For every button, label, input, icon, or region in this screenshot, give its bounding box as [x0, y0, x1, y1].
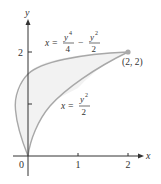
- parabola-lhs: x =: [60, 101, 74, 111]
- y-axis-arrow-icon: [26, 19, 31, 25]
- parabola-den: 2: [82, 107, 87, 117]
- quartic-num2: y: [89, 32, 94, 42]
- x-tick-label-1: 1: [76, 159, 81, 170]
- point-2-2: [125, 49, 130, 54]
- quartic-lhs: x =: [44, 38, 58, 48]
- quartic-exp2: 2: [95, 30, 98, 36]
- origin-label: 0: [19, 159, 24, 170]
- point-label: (2, 2): [122, 57, 143, 68]
- x-tick-label-2: 2: [126, 159, 131, 170]
- x-axis-arrow-icon: [138, 154, 144, 159]
- y-tick-label-2: 2: [18, 47, 23, 58]
- parabola-equation-label: x = y 2 2: [60, 92, 90, 117]
- quartic-op: −: [78, 38, 83, 48]
- quartic-den2: 2: [92, 44, 97, 54]
- parabola-exp: 2: [85, 92, 88, 98]
- quartic-exp1: 4: [69, 30, 72, 36]
- region-diagram: x y 0 1 2 2 (2, 2) x = y 4 4 − y 2 2 x =…: [0, 0, 161, 184]
- quartic-equation-label: x = y 4 4 − y 2 2: [44, 30, 100, 54]
- quartic-den1: 4: [66, 44, 71, 54]
- y-axis-label: y: [24, 7, 30, 18]
- x-axis-label: x: [145, 150, 151, 161]
- quartic-num1: y: [63, 32, 68, 42]
- parabola-num: y: [79, 94, 84, 104]
